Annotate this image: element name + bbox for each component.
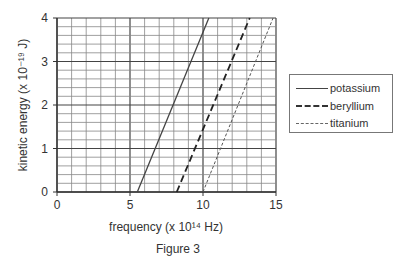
x-tick-label: 10 bbox=[196, 198, 210, 212]
y-tick-label: 1 bbox=[41, 142, 48, 156]
dashed-line-swatch bbox=[296, 105, 328, 107]
y-tick-label: 0 bbox=[41, 185, 48, 199]
x-tick-label: 5 bbox=[127, 198, 134, 212]
legend-item-titanium: titanium bbox=[296, 114, 369, 132]
solid-line-swatch bbox=[296, 88, 328, 89]
legend-label: potassium bbox=[330, 82, 380, 94]
x-axis-label: frequency (x 10¹⁴ Hz) bbox=[109, 220, 223, 234]
grid bbox=[57, 18, 276, 192]
legend-item-potassium: potassium bbox=[296, 79, 380, 97]
y-tick-label: 4 bbox=[41, 11, 48, 25]
y-axis-label: kinetic energy (x 10⁻¹⁹ J) bbox=[16, 39, 30, 172]
y-tick-label: 2 bbox=[41, 98, 48, 112]
legend-label: titanium bbox=[330, 117, 369, 129]
x-tick-label: 15 bbox=[269, 198, 283, 212]
legend-item-beryllium: beryllium bbox=[296, 97, 374, 115]
legend-label: beryllium bbox=[330, 100, 374, 112]
y-tick-label: 3 bbox=[41, 55, 48, 69]
figure-caption: Figure 3 bbox=[148, 242, 208, 256]
x-tick-label: 0 bbox=[54, 198, 61, 212]
legend: potassium beryllium titanium bbox=[289, 74, 393, 133]
dotted-line-swatch bbox=[296, 123, 328, 124]
